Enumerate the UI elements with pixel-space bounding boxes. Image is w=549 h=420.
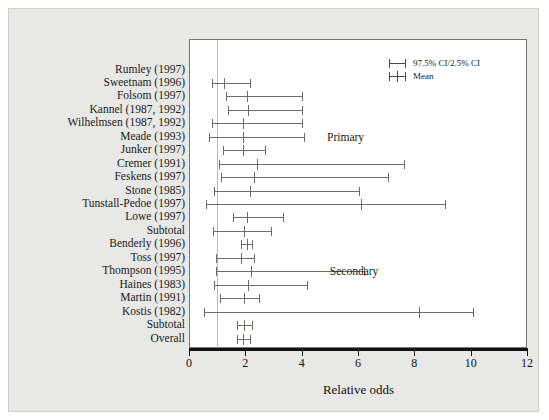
confidence-interval-bar xyxy=(206,204,445,205)
interval-end-cap xyxy=(302,119,303,128)
interval-end-cap xyxy=(271,227,272,236)
interval-end-cap xyxy=(302,92,303,101)
confidence-interval-bar xyxy=(212,83,250,84)
interval-end-cap xyxy=(226,92,227,101)
interval-end-cap xyxy=(302,106,303,115)
confidence-interval-bar xyxy=(209,137,305,138)
x-axis-tick-label: 2 xyxy=(230,356,260,371)
mean-marker xyxy=(247,212,248,223)
study-label: Benderly (1996) xyxy=(9,238,185,249)
confidence-interval-bar xyxy=(212,123,302,124)
interval-end-cap xyxy=(473,308,474,317)
mean-marker xyxy=(248,105,249,116)
mean-marker xyxy=(244,320,245,331)
study-label: Feskens (1997) xyxy=(9,171,185,182)
confidence-interval-bar xyxy=(228,110,301,111)
mean-marker xyxy=(254,172,255,183)
study-label: Overall xyxy=(9,333,185,344)
study-label: Subtotal xyxy=(9,319,185,330)
study-label: Folsom (1997) xyxy=(9,90,185,101)
study-label: Kannel (1987, 1992) xyxy=(9,104,185,115)
interval-end-cap xyxy=(265,146,266,155)
study-label: Stone (1985) xyxy=(9,185,185,196)
mean-marker xyxy=(251,266,252,277)
confidence-interval-bar xyxy=(214,285,307,286)
group-label-primary: Primary xyxy=(327,131,364,143)
study-label: Martin (1991) xyxy=(9,292,185,303)
interval-end-cap xyxy=(252,321,253,330)
confidence-interval-bar xyxy=(219,164,405,165)
group-label-secondary: Secondary xyxy=(330,265,379,277)
study-label: Wilhelmsen (1987, 1992) xyxy=(9,117,185,128)
confidence-interval-bar xyxy=(204,312,473,313)
interval-end-cap xyxy=(213,227,214,236)
interval-end-cap xyxy=(259,294,260,303)
interval-end-cap xyxy=(283,213,284,222)
interval-end-cap xyxy=(445,200,446,209)
plot-area xyxy=(189,39,527,348)
interval-end-cap xyxy=(216,254,217,263)
confidence-interval-bar xyxy=(226,96,302,97)
interval-end-cap xyxy=(388,173,389,182)
study-label: Toss (1997) xyxy=(9,252,185,263)
interval-end-cap xyxy=(219,160,220,169)
study-label: Thompson (1995) xyxy=(9,265,185,276)
mean-marker xyxy=(243,118,244,129)
interval-bar-icon xyxy=(387,57,409,70)
study-label: Haines (1983) xyxy=(9,279,185,290)
figure-mount: Rumley (1997)Sweetnam (1996)Folsom (1997… xyxy=(8,8,539,412)
mean-marker xyxy=(224,78,225,89)
interval-end-cap xyxy=(237,335,238,344)
study-label: Rumley (1997) xyxy=(9,64,185,75)
interval-end-cap xyxy=(209,133,210,142)
study-label: Lowe (1997) xyxy=(9,211,185,222)
interval-end-cap xyxy=(233,213,234,222)
mean-marker xyxy=(243,145,244,156)
x-axis-title: Relative odds xyxy=(189,382,528,398)
study-label: Meade (1993) xyxy=(9,131,185,142)
interval-end-cap xyxy=(214,281,215,290)
interval-end-cap xyxy=(214,187,215,196)
x-axis-tick-label: 4 xyxy=(287,356,317,371)
study-label: Junker (1997) xyxy=(9,144,185,155)
x-axis-tick-label: 10 xyxy=(456,356,486,371)
legend-label-mean: Mean xyxy=(413,71,434,81)
study-label: Kostis (1982) xyxy=(9,306,185,317)
interval-end-cap xyxy=(304,133,305,142)
confidence-interval-bar xyxy=(220,298,259,299)
study-label-column: Rumley (1997)Sweetnam (1996)Folsom (1997… xyxy=(9,9,185,420)
x-axis-tick-label: 0 xyxy=(174,356,204,371)
mean-marker xyxy=(247,91,248,102)
x-axis-tick-label: 12 xyxy=(512,356,542,371)
interval-end-cap xyxy=(216,267,217,276)
interval-end-cap xyxy=(252,240,253,249)
interval-end-cap xyxy=(212,79,213,88)
mean-marker xyxy=(241,253,242,264)
mean-marker xyxy=(361,199,362,210)
legend-label-ci: 97.5% CI/2.5% CI xyxy=(413,58,480,68)
mean-marker xyxy=(419,307,420,318)
confidence-interval-bar xyxy=(213,231,271,232)
interval-bar-mean-icon xyxy=(387,70,409,83)
interval-end-cap xyxy=(221,173,222,182)
interval-end-cap xyxy=(250,335,251,344)
mean-marker xyxy=(250,186,251,197)
mean-marker xyxy=(244,293,245,304)
mean-marker xyxy=(248,280,249,291)
forest-plot-figure: Rumley (1997)Sweetnam (1996)Folsom (1997… xyxy=(0,0,549,420)
interval-end-cap xyxy=(359,187,360,196)
study-label: Cremer (1991) xyxy=(9,158,185,169)
interval-end-cap xyxy=(228,106,229,115)
reference-line xyxy=(217,40,218,348)
study-label: Sweetnam (1996) xyxy=(9,77,185,88)
interval-end-cap xyxy=(307,281,308,290)
interval-end-cap xyxy=(254,254,255,263)
study-label: Subtotal xyxy=(9,225,185,236)
mean-marker xyxy=(244,226,245,237)
mean-marker xyxy=(247,239,248,250)
study-label: Tunstall-Pedoe (1997) xyxy=(9,198,185,209)
interval-end-cap xyxy=(241,240,242,249)
x-axis-tick-label: 8 xyxy=(399,356,429,371)
confidence-interval-bar xyxy=(216,258,254,259)
confidence-interval-bar xyxy=(221,177,387,178)
